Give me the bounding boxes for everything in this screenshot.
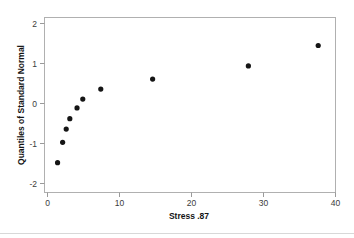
data-point	[246, 63, 251, 68]
data-points-layer	[55, 43, 321, 165]
data-point	[60, 140, 65, 145]
y-tick-label: 0	[32, 99, 37, 109]
y-axis-ticks	[40, 24, 45, 184]
data-point	[67, 116, 72, 121]
y-axis-title: Quantiles of Standard Normal	[16, 45, 26, 165]
x-tick-label: 0	[45, 198, 50, 208]
x-tick-label: 30	[259, 198, 269, 208]
y-tick-label: -2	[29, 179, 37, 189]
chart-figure: 2 1 0 -1 -2 0 10 20 30 40 Stress .87 Qua…	[0, 0, 354, 238]
data-point	[316, 43, 321, 48]
data-point	[150, 77, 155, 82]
data-point	[55, 160, 60, 165]
x-tick-label: 10	[115, 198, 125, 208]
x-tick-label: 20	[187, 198, 197, 208]
data-point	[64, 127, 69, 132]
data-point	[98, 87, 103, 92]
y-tick-label: 2	[32, 19, 37, 29]
scatter-plot-svg: 2 1 0 -1 -2 0 10 20 30 40 Stress .87 Qua…	[0, 0, 354, 238]
x-axis-title: Stress .87	[169, 211, 209, 221]
y-tick-label: -1	[29, 139, 37, 149]
x-axis-ticks	[48, 193, 336, 198]
plot-frame	[45, 18, 336, 193]
data-point	[74, 105, 79, 110]
x-tick-label: 40	[331, 198, 341, 208]
data-point	[80, 97, 85, 102]
y-tick-label: 1	[32, 59, 37, 69]
